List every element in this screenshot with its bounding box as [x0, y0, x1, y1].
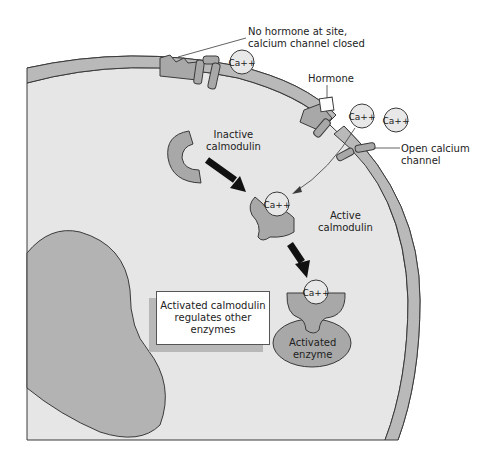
callout-box: Activated calmodulin regulates other enz…: [156, 291, 270, 345]
label-no-hormone: No hormone at site, calcium channel clos…: [248, 26, 365, 50]
svg-text:Ca++: Ca++: [349, 112, 376, 122]
callout-line-2: regulates other: [160, 312, 265, 324]
label-open-channel: Open calcium channel: [401, 143, 470, 167]
calcium-ion-outside-3: Ca++: [383, 108, 410, 132]
label-hormone: Hormone: [308, 73, 354, 85]
calcium-ion-outside-2: Ca++: [349, 104, 376, 128]
callout-line-1: Activated calmodulin: [160, 300, 265, 312]
svg-text:Ca++: Ca++: [383, 116, 410, 126]
svg-text:Ca++: Ca++: [229, 58, 256, 68]
svg-text:Ca++: Ca++: [264, 200, 291, 210]
svg-text:Ca++: Ca++: [303, 288, 330, 298]
cell-diagram: Ca++ Ca++ Ca++ Ca++ Ca++: [0, 0, 488, 456]
label-activated-enzyme: Activated enzyme: [289, 337, 336, 361]
hormone-square: [319, 97, 334, 112]
label-inactive-calmodulin: Inactive calmodulin: [206, 129, 261, 153]
label-active-calmodulin: Active calmodulin: [318, 210, 373, 234]
callout-line-3: enzymes: [160, 324, 265, 336]
